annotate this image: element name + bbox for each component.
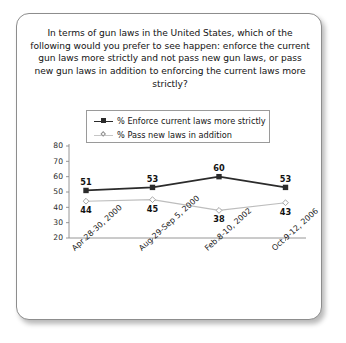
y-axis-tick-label: 40 [43,203,63,212]
data-point-label: 53 [273,174,299,184]
y-axis-tick-label: 20 [43,233,63,242]
poll-chart-card: In terms of gun laws in the United State… [16,13,322,320]
data-point-label: 44 [73,205,99,215]
data-point-label: 43 [273,207,299,217]
y-axis-tick-label: 60 [43,172,63,181]
data-point-label: 53 [140,174,166,184]
y-axis-tick-label: 30 [43,218,63,227]
line-chart-plot [17,14,322,320]
y-axis-tick-label: 50 [43,187,63,196]
data-point-label: 38 [206,214,232,224]
y-axis-tick-label: 80 [43,141,63,150]
y-axis-tick-label: 70 [43,157,63,166]
data-point-label: 51 [73,177,99,187]
data-point-label: 60 [206,163,232,173]
data-point-label: 45 [140,204,166,214]
